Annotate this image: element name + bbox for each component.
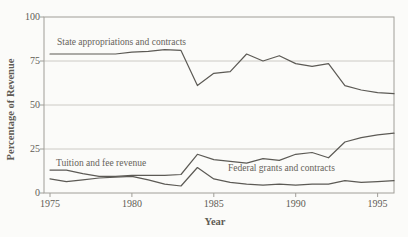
- y-tick-label-50: 50: [10, 99, 40, 111]
- chart-figure: State appropriations and contracts Tuiti…: [0, 0, 408, 237]
- x-tick-label-1995: 1995: [358, 198, 398, 210]
- y-tick-label-25: 25: [10, 143, 40, 155]
- line-tuition: [50, 133, 394, 176]
- series-label-tuition-fees: Tuition and fee revenue: [56, 158, 146, 169]
- y-tick-label-75: 75: [10, 55, 40, 67]
- series-label-federal-grants: Federal grants and contracts: [228, 163, 335, 174]
- y-tick-label-100: 100: [10, 11, 40, 23]
- x-tick-label-1980: 1980: [112, 198, 152, 210]
- x-tick-label-1985: 1985: [194, 198, 234, 210]
- line-state: [50, 50, 394, 94]
- series-label-state-appropriations: State appropriations and contracts: [57, 37, 186, 48]
- x-axis-title: Year: [185, 216, 245, 227]
- x-tick-label-1975: 1975: [30, 198, 70, 210]
- x-tick-label-1990: 1990: [276, 198, 316, 210]
